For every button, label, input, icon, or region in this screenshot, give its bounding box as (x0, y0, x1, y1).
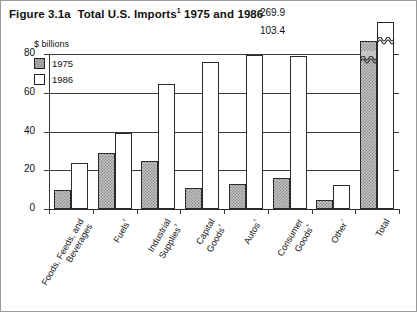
x-tick-mark (137, 209, 138, 214)
x-tick-mark (224, 209, 225, 214)
y-axis-tick-label: 60 (9, 86, 35, 97)
y-axis-tick-label: 0 (9, 202, 35, 213)
bar-1975 (273, 178, 290, 209)
x-tick-mark (399, 209, 400, 214)
bar-1975 (360, 41, 377, 209)
figure-panel: Figure 3.1a Total U.S. Imports1 1975 and… (0, 0, 417, 312)
x-tick-mark (355, 209, 356, 214)
bar-1975 (98, 153, 115, 209)
x-axis-category-label: ConsumerGoods⁶ (275, 217, 316, 264)
x-tick-mark (93, 209, 94, 214)
x-tick-mark (180, 209, 181, 214)
bar-group (93, 54, 137, 209)
bar-1986 (333, 185, 350, 209)
bar-1986 (377, 22, 394, 209)
figure-title-suffix: 1975 and 1986 (184, 8, 263, 20)
y-axis-units-label: $ billions (34, 39, 69, 49)
bar-group (180, 54, 224, 209)
y-axis-tick-label: 80 (9, 47, 35, 58)
figure-title-prefix: Figure 3.1a (9, 8, 71, 20)
x-axis-category-label: CapitalGoods⁴ (193, 217, 228, 254)
figure-title: Figure 3.1a Total U.S. Imports1 1975 and… (9, 7, 263, 20)
broken-axis-squiggle-icon (378, 32, 393, 39)
legend-swatch-1975-icon (34, 58, 45, 69)
bar-1986 (71, 163, 88, 210)
y-axis-tick-label: 40 (9, 125, 35, 136)
x-axis-category-label: Fuels² (109, 217, 132, 244)
bar-1986 (115, 133, 132, 209)
plot-area: 020406080 Foods, Feeds, andBeveragesFuel… (49, 54, 399, 209)
total-callout-1986: 269.9 (260, 7, 285, 18)
bar-1986 (246, 55, 263, 209)
bar-1975 (229, 184, 246, 209)
bar-1986 (158, 84, 175, 209)
broken-axis-squiggle-icon (361, 51, 376, 58)
x-tick-mark (312, 209, 313, 214)
x-tick-mark (268, 209, 269, 214)
bar-group (268, 54, 312, 209)
bar-1975 (141, 161, 158, 209)
bar-group (224, 54, 268, 209)
bar-1975 (316, 200, 333, 209)
bar-1986 (290, 56, 307, 209)
x-axis-category-label: Foods, Feeds, andBeverages (39, 217, 94, 292)
x-tick-mark (49, 209, 50, 214)
bar-1975 (54, 190, 71, 209)
figure-title-footnote-marker: 1 (177, 7, 181, 14)
x-axis-category-label: Autos⁵ (239, 217, 263, 246)
legend-swatch-1986-icon (34, 74, 45, 85)
figure-title-main: Total U.S. Imports (77, 8, 176, 20)
bar-group (49, 54, 93, 209)
x-axis-category-label: IndustrialSupplies³ (146, 217, 184, 260)
x-axis-category-label: Total (374, 217, 392, 238)
bar-group (312, 54, 356, 209)
total-callout-1975: 103.4 (260, 25, 285, 36)
bar-1986 (202, 62, 219, 209)
y-axis-tick-label: 20 (9, 163, 35, 174)
bar-group (137, 54, 181, 209)
bar-group (355, 54, 399, 209)
bar-1975 (185, 188, 202, 209)
x-axis-category-label: Other⁷ (327, 217, 351, 245)
